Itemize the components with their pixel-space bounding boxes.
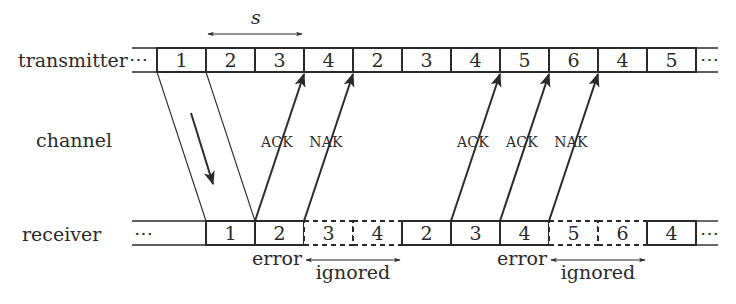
transmitter-frame: 4 — [304, 48, 353, 72]
feedback-arrows: ACKNAKACKACKNAK — [255, 74, 598, 221]
transmitter-frame: 2 — [353, 48, 402, 72]
transmitter-frame: 3 — [255, 48, 304, 72]
receiver-frame-number: 4 — [371, 222, 383, 244]
error-annotations: errorignorederrorignored — [252, 247, 645, 283]
transmitter-frame: 4 — [598, 48, 647, 72]
transmitter-frames: 12342345645 — [157, 48, 696, 72]
propagation-direction-arrow — [191, 113, 213, 184]
error-ignored-annotation: errorignored — [252, 247, 400, 283]
transmitter-frame-number: 2 — [371, 49, 383, 71]
receiver-frame-number: 6 — [616, 222, 628, 244]
feedback-ack: ACK — [500, 74, 549, 221]
transmitter-row: 12342345645 ⋯ — [132, 48, 719, 72]
receiver-frames: 1234234564 — [206, 221, 696, 245]
transmitter-frame: 4 — [451, 48, 500, 72]
feedback-nak: NAK — [549, 74, 598, 221]
receiver-frame: 4 — [353, 221, 402, 245]
receiver-frame: 4 — [500, 221, 549, 245]
receiver-frame-number: 4 — [665, 222, 677, 244]
transmitter-frame-number: 5 — [665, 49, 677, 71]
receiver-frame-number: 2 — [420, 222, 432, 244]
nak-label: NAK — [309, 134, 343, 150]
receiver-frame: 2 — [255, 221, 304, 245]
propagation-edge-trailing — [206, 72, 255, 221]
transmitter-frame: 6 — [549, 48, 598, 72]
receiver-frame-number: 2 — [273, 222, 285, 244]
transmitter-frame-number: 2 — [224, 49, 236, 71]
transmitter-frame: 5 — [647, 48, 696, 72]
receiver-frame-number: 5 — [567, 222, 579, 244]
transmitter-label: transmitter — [18, 49, 129, 71]
receiver-frame-number: 3 — [469, 222, 481, 244]
diagram-canvas: transmitter ⋯ channel receiver ⋯ s 12342… — [0, 0, 736, 304]
channel-label: channel — [36, 129, 112, 151]
feedback-ack: ACK — [451, 74, 500, 221]
transmitter-trail-ellipsis: ⋯ — [700, 48, 719, 70]
transmitter-frame-number: 1 — [175, 49, 187, 71]
receiver-frame-number: 4 — [518, 222, 530, 244]
receiver-frame: 5 — [549, 221, 598, 245]
feedback-nak: NAK — [304, 74, 353, 221]
transmitter-frame: 2 — [206, 48, 255, 72]
receiver-frame: 4 — [647, 221, 696, 245]
transmitter-frame-number: 4 — [322, 49, 334, 71]
transmitter-lead-ellipsis: ⋯ — [129, 48, 148, 70]
receiver-frame: 6 — [598, 221, 647, 245]
transmitter-frame-number: 4 — [469, 49, 481, 71]
transmitter-frame-number: 3 — [420, 49, 432, 71]
receiver-frame-number: 3 — [322, 222, 334, 244]
transmitter-frame-number: 5 — [518, 49, 530, 71]
frame-propagation — [157, 72, 255, 221]
transmitter-frame-number: 3 — [273, 49, 285, 71]
window-size-indicator: s — [208, 6, 302, 34]
error-ignored-annotation: errorignored — [497, 247, 645, 283]
window-size-label: s — [251, 6, 261, 28]
receiver-frame-number: 1 — [224, 222, 236, 244]
error-label: error — [497, 247, 548, 269]
transmitter-frame: 5 — [500, 48, 549, 72]
receiver-frame: 3 — [451, 221, 500, 245]
receiver-row: 1234234564 ⋯ — [132, 221, 719, 245]
ack-label: ACK — [456, 134, 489, 150]
ignored-label: ignored — [561, 261, 635, 283]
transmitter-frame: 3 — [402, 48, 451, 72]
propagation-edge-leading — [157, 72, 206, 221]
receiver-frame: 3 — [304, 221, 353, 245]
transmitter-frame: 1 — [157, 48, 206, 72]
ack-label: ACK — [505, 134, 538, 150]
receiver-lead-ellipsis: ⋯ — [134, 222, 153, 244]
error-label: error — [252, 247, 303, 269]
feedback-ack: ACK — [255, 74, 304, 221]
transmitter-frame-number: 6 — [567, 49, 579, 71]
receiver-frame: 2 — [402, 221, 451, 245]
receiver-frame: 1 — [206, 221, 255, 245]
transmitter-frame-number: 4 — [616, 49, 628, 71]
ack-label: ACK — [260, 134, 293, 150]
receiver-trail-ellipsis: ⋯ — [700, 222, 719, 244]
ignored-label: ignored — [316, 261, 390, 283]
nak-label: NAK — [554, 134, 588, 150]
receiver-label: receiver — [22, 223, 102, 245]
go-back-n-arq-diagram: transmitter ⋯ channel receiver ⋯ s 12342… — [0, 0, 736, 304]
